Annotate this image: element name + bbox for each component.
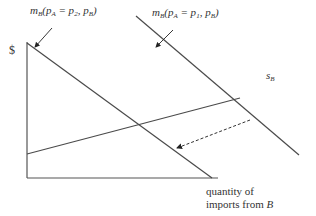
- label-pointer-p2: [35, 28, 52, 47]
- curve-label-mB-p1: mB(pA = p1, pB): [152, 6, 219, 20]
- diagram-canvas: [0, 0, 316, 216]
- x-axis-label: quantity of imports from B: [206, 185, 273, 211]
- import-demand-curve-p1: [136, 16, 299, 155]
- shift-arrow: [177, 120, 250, 148]
- supply-curve-sB: [27, 98, 240, 154]
- y-axis-label: $: [9, 43, 15, 58]
- curve-label-mB-p2: mB(pA = p2, pB): [30, 4, 97, 18]
- import-demand-curve-p2: [27, 43, 212, 178]
- label-pointer-p1: [156, 30, 173, 47]
- curve-label-sB: sB: [266, 69, 275, 83]
